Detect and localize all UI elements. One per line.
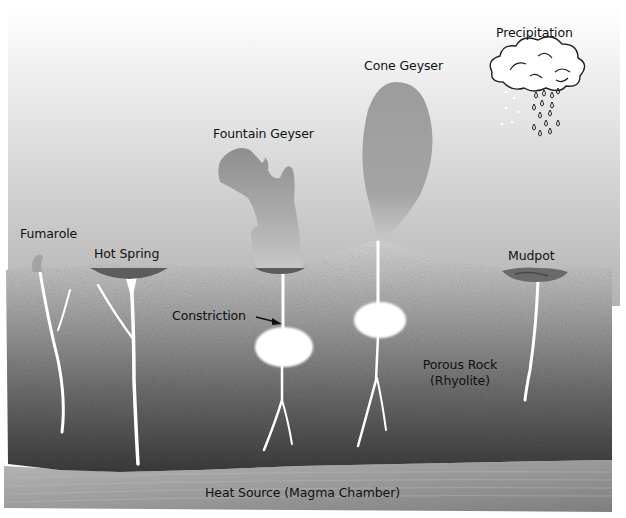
fountain-geyser-chamber — [255, 327, 313, 367]
label-hot-spring: Hot Spring — [94, 246, 159, 261]
label-porous-rock-line2: (Rhyolite) — [420, 373, 500, 389]
label-cone-geyser: Cone Geyser — [364, 58, 443, 73]
label-fumarole: Fumarole — [20, 226, 77, 241]
label-heat-source: Heat Source (Magma Chamber) — [205, 485, 400, 500]
cone-geyser-chamber — [354, 302, 406, 338]
label-porous-rock-line1: Porous Rock — [420, 357, 500, 373]
label-precipitation: Precipitation — [496, 25, 573, 40]
label-constriction: Constriction — [172, 308, 246, 323]
label-fountain-geyser: Fountain Geyser — [213, 126, 314, 141]
label-porous-rock: Porous Rock (Rhyolite) — [420, 357, 500, 389]
label-mudpot: Mudpot — [508, 248, 555, 263]
